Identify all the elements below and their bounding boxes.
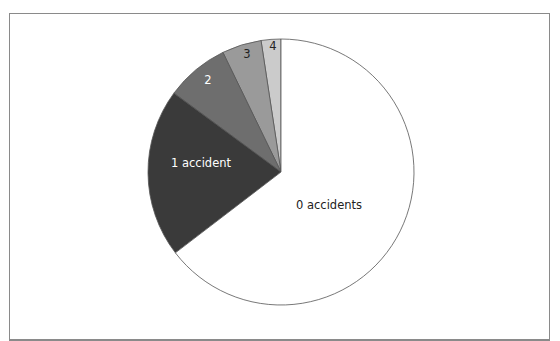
slice-label-2-accidents: 2 bbox=[204, 73, 211, 87]
pie-chart: 0 accidents 1 accident 2 3 4 bbox=[0, 0, 560, 341]
slice-label-1-accident: 1 accident bbox=[171, 156, 232, 170]
pie-slices bbox=[148, 39, 414, 305]
slice-label-4-accidents: 4 bbox=[269, 39, 276, 53]
slice-label-0-accidents: 0 accidents bbox=[296, 198, 362, 212]
slice-label-3-accidents: 3 bbox=[243, 47, 250, 61]
